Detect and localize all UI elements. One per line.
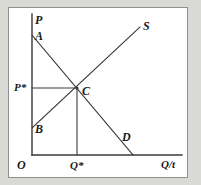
supply-curve	[32, 27, 140, 128]
equilibrium-point-marker	[75, 86, 78, 89]
x-axis-label: Q/t	[161, 159, 175, 170]
demand-curve-label: D	[122, 131, 131, 143]
figure-container: P A P* B C S D O Q* Q/t	[0, 0, 201, 185]
origin-label: O	[17, 159, 26, 171]
demand-intercept-label: A	[35, 30, 43, 42]
supply-curve-label: S	[143, 20, 150, 32]
equilibrium-price-label: P*	[14, 82, 26, 93]
equilibrium-quantity-label: Q*	[70, 160, 83, 171]
supply-intercept-label: B	[35, 123, 43, 135]
equilibrium-point-label: C	[82, 85, 90, 97]
y-axis-label: P	[35, 14, 42, 26]
